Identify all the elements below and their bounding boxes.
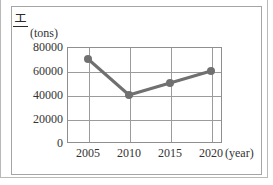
y-tick-label: 60000 [3, 65, 63, 77]
data-point-marker [84, 55, 92, 63]
data-point-marker [125, 91, 133, 99]
x-axis-unit-label: (year) [225, 147, 254, 160]
y-tick-label: 80000 [3, 41, 63, 53]
option-letter-label: エ [13, 11, 28, 27]
y-axis-tick-labels: 80000 60000 40000 20000 0 [0, 47, 63, 143]
x-axis-tick-labels: 2005 2010 2015 2020 [67, 147, 222, 163]
data-point-marker [207, 67, 215, 75]
y-axis-unit-label: (tons) [30, 27, 58, 40]
y-tick-label: 20000 [3, 113, 63, 125]
data-point-marker [166, 79, 174, 87]
x-tick-label: 2015 [148, 147, 192, 160]
y-tick-label: 0 [3, 137, 63, 149]
x-tick-label: 2010 [107, 147, 151, 160]
x-tick-label: 2005 [66, 147, 110, 160]
y-tick-label: 40000 [3, 89, 63, 101]
line-path [88, 59, 211, 95]
data-series-line [67, 47, 222, 143]
